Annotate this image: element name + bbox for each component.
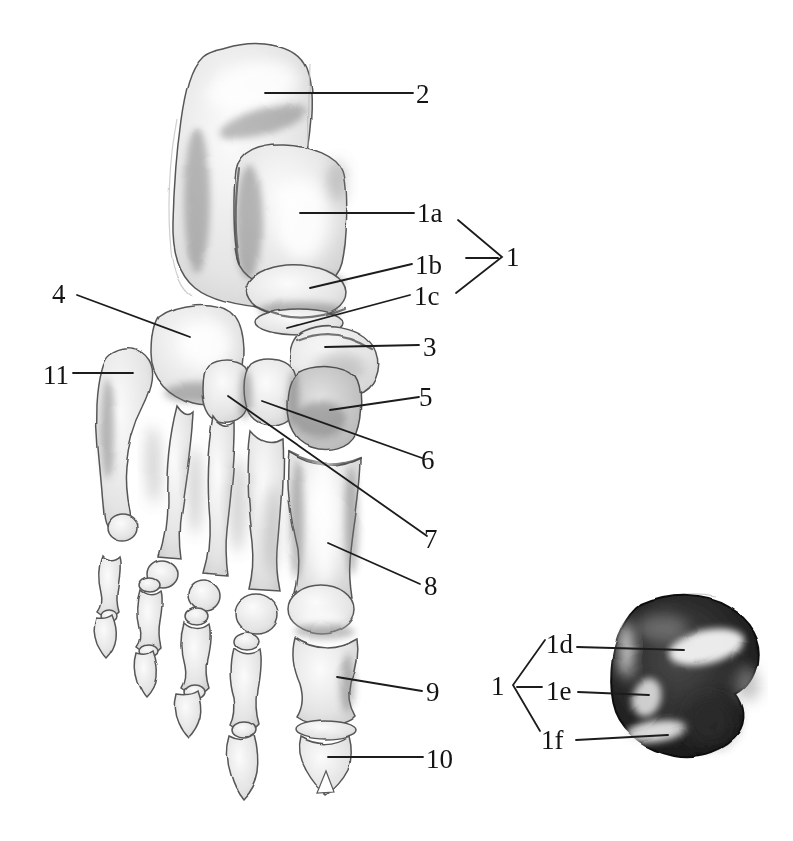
bracket-1-detail: [513, 640, 545, 731]
shading-patch: [146, 425, 160, 505]
toe3-base-knob: [185, 608, 207, 624]
toe3-proximal-phalanx: [181, 622, 209, 693]
label-3: 3: [423, 332, 437, 362]
second-metatarsal-head: [236, 595, 278, 633]
label-1c: 1c: [414, 281, 440, 311]
label-1a: 1a: [417, 198, 443, 228]
figure-page: 2 1a 1b 1c 1 3 4 5 6 7 8 9 10 11 1 1d 1e…: [0, 0, 793, 841]
label-10: 10: [426, 744, 453, 774]
toe4-base-knob: [140, 578, 160, 592]
talus-detail-drawing: [611, 595, 760, 756]
first-metatarsal-highlight: [311, 455, 337, 585]
shading-patch: [287, 370, 299, 426]
label-11: 11: [43, 360, 69, 390]
toe5-proximal-phalanx: [98, 556, 121, 617]
third-metatarsal-head: [188, 581, 220, 611]
hallux-ip-joint: [296, 721, 356, 739]
toe2-base-knob: [233, 632, 259, 650]
fifth-metatarsal-head: [107, 515, 137, 541]
shading-patch: [294, 624, 354, 638]
detail-edge-highlight: [619, 622, 633, 678]
shading-patch: [290, 460, 304, 580]
shading-patch: [230, 457, 246, 553]
label-1f: 1f: [541, 725, 564, 755]
toe4-proximal-phalanx: [137, 590, 162, 651]
label-1e: 1e: [546, 676, 572, 706]
toe5-distal-phalanx: [95, 615, 117, 658]
label-5: 5: [419, 382, 433, 412]
detail-right-lobe: [736, 665, 760, 701]
shading-patch: [341, 652, 355, 712]
label-4: 4: [52, 279, 66, 309]
label-9: 9: [426, 677, 440, 707]
bracket-1: [456, 220, 502, 293]
toe4-distal-phalanx: [135, 650, 157, 697]
label-1b: 1b: [415, 250, 442, 280]
label-6: 6: [421, 445, 435, 475]
detail-lower-dark: [685, 695, 735, 745]
label-8: 8: [424, 571, 438, 601]
shading-patch: [265, 485, 279, 575]
shading-patch: [345, 465, 359, 575]
shading-patch: [240, 369, 252, 421]
toe3-distal-phalanx: [174, 691, 201, 739]
label-2: 2: [416, 79, 430, 109]
label-1d: 1d: [546, 629, 574, 659]
foot-skeleton-drawing: [95, 44, 379, 799]
toe2-proximal-phalanx: [230, 648, 261, 731]
shading-patch: [101, 380, 115, 480]
label-7: 7: [424, 524, 438, 554]
shading-patch: [187, 445, 201, 535]
shading-patch: [327, 160, 347, 204]
label-1-detail: 1: [491, 671, 505, 701]
shading-patch: [295, 402, 345, 438]
label-1-main: 1: [506, 242, 520, 272]
detail-upper-gray: [636, 614, 688, 642]
shading-patch: [184, 128, 210, 272]
toe2-distal-phalanx: [227, 735, 257, 799]
talus-highlight: [276, 180, 328, 260]
figure-canvas: 2 1a 1b 1c 1 3 4 5 6 7 8 9 10 11 1 1d 1e…: [0, 0, 793, 841]
